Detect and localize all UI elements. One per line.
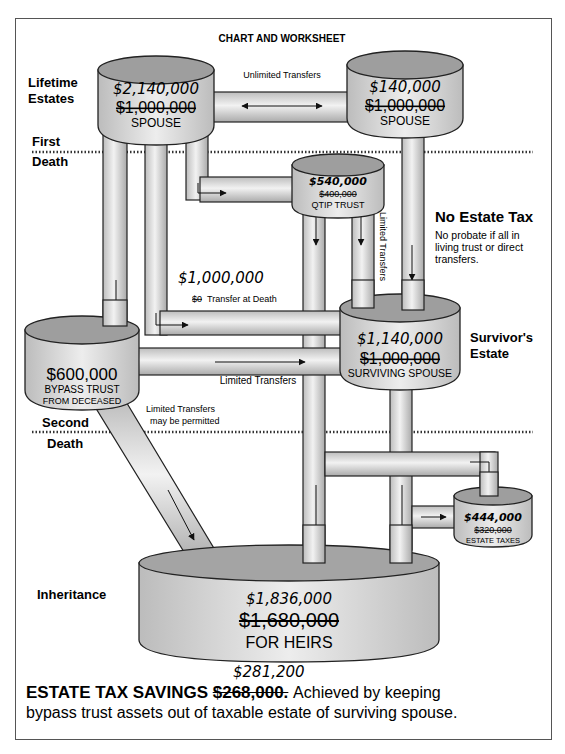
section-survivors-estate-2: Estate [470,346,509,361]
heirs-old-value: $1,680,000 [239,609,339,631]
bypass-limited-transfers-label: Limited Transfers [220,375,297,386]
spouse-left-new-value: $2,140,000 [113,80,199,98]
no-estate-tax-heading: No Estate Tax [435,208,534,225]
savings-old-value: $268,000. [213,683,289,702]
section-inheritance: Inheritance [37,587,106,602]
section-lifetime-1: Lifetime [28,75,78,90]
section-lifetime-2: Estates [28,91,74,106]
estate-taxes-label: ESTATE TAXES [466,536,520,545]
transfer-at-death-old-value: $0 [192,294,202,304]
qtip-label: QTIP TRUST [311,200,365,210]
savings-line-2: bypass trust assets out of taxable estat… [26,704,546,722]
qtip-new-value: $540,000 [309,175,367,188]
unlimited-transfers-label: Unlimited Transfers [243,70,321,80]
spouse-left-old-value: $1,000,000 [116,99,196,116]
section-second-death-1: Second [42,415,89,430]
pipe-transfer-at-death [160,311,350,335]
chart-title: CHART AND WORKSHEET [219,33,346,44]
no-estate-tax-line-3: transfers. [435,253,479,265]
heirs-new-value: $1,836,000 [246,590,332,608]
pipe-spouse-to-bypass [103,135,127,325]
bypass-trust-value: $600,000 [47,365,118,384]
surviving-spouse-label: SURVIVING SPOUSE [348,367,452,379]
surviving-spouse-new-value: $1,140,000 [357,330,443,348]
estate-taxes-new-value: $444,000 [464,511,522,524]
limited-permitted-line-1: Limited Transfers [146,404,216,414]
limited-permitted-line-2: may be permitted [150,416,220,426]
pipe-unlimited-transfers [212,92,352,122]
section-second-death-2: Death [47,436,83,451]
spouse-right-old-value: $1,000,000 [365,97,445,114]
transfer-at-death-new-value: $1,000,000 [178,269,264,287]
qtip-old-value: $400,000 [319,189,357,199]
pipe-spouse-transfer-at-death [145,135,167,335]
section-first-death-1: First [32,134,61,149]
savings-line1-rest: Achieved by keeping [293,684,441,701]
spouse-right-new-value: $140,000 [369,78,441,96]
surviving-spouse-old-value: $1,000,000 [360,350,440,367]
bypass-trust-label-1: BYPASS TRUST [44,384,119,395]
heirs-label: FOR HEIRS [245,634,332,651]
qtip-limited-transfers-label: Limited Transfers [378,212,388,282]
estate-flow-diagram: CHART AND WORKSHEET Lifetime Estates Fir… [0,0,565,754]
transfer-at-death-label: Transfer at Death [207,294,277,304]
no-estate-tax-line-2: living trust or direct [435,241,523,253]
pipe-to-estate-taxes-h [325,452,495,476]
savings-heading: ESTATE TAX SAVINGS [26,683,208,702]
spouse-right-label: SPOUSE [380,114,430,128]
spouse-left-label: SPOUSE [131,116,181,130]
savings-line: ESTATE TAX SAVINGS $268,000. Achieved by… [26,683,546,703]
section-first-death-2: Death [32,154,68,169]
pipe-qtip-to-heirs [303,210,325,550]
bypass-trust-label-2: FROM DECEASED [43,396,122,406]
footer: ESTATE TAX SAVINGS $268,000. Achieved by… [26,683,546,722]
estate-tax-savings-new-value: $281,200 [233,663,305,681]
section-survivors-estate-1: Survivor's [470,330,533,345]
pipe-spouse-to-qtip-h [200,177,295,202]
no-estate-tax-line-1: No probate if all in [435,229,520,241]
estate-taxes-old-value: $320,000 [474,525,512,535]
